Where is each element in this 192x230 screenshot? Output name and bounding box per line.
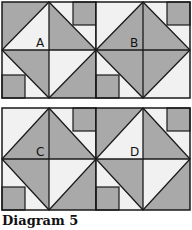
small-square-top-right	[167, 108, 190, 131]
small-square-top-right	[73, 2, 96, 25]
small-square-bottom-left	[96, 75, 119, 98]
diagram-caption: Diagram 5	[2, 213, 78, 229]
small-square-bottom-left	[2, 75, 25, 98]
quilt-block-c: C	[2, 108, 96, 210]
small-square-top-right	[73, 108, 96, 131]
block-label: C	[36, 145, 44, 159]
small-square-bottom-left	[96, 187, 119, 210]
small-square-top-right	[167, 2, 190, 25]
small-square-bottom-left	[2, 187, 25, 210]
quilt-block-d: D	[96, 108, 190, 210]
block-label: A	[36, 36, 45, 50]
block-label: B	[130, 36, 138, 50]
quilt-block-b: B	[96, 2, 190, 98]
quilt-block-a: A	[2, 2, 96, 98]
block-label: D	[130, 145, 139, 159]
quilt-diagram: ABCD	[0, 0, 192, 212]
